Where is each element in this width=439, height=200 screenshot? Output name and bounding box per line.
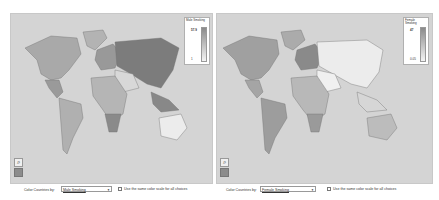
color-legend: Female Smoking 47 0.05: [403, 17, 429, 65]
legend-min: 0.05: [410, 57, 416, 61]
same-scale-checkbox[interactable]: [327, 187, 331, 191]
north-america[interactable]: [223, 36, 279, 80]
chevron-down-icon[interactable]: ▼: [107, 187, 110, 193]
color-by-label: Color Countries by:: [24, 188, 55, 192]
selected-value: Male Smoking: [63, 188, 86, 192]
color-by-label: Color Countries by:: [226, 188, 257, 192]
australia[interactable]: [159, 114, 187, 140]
se-asia[interactable]: [357, 92, 387, 112]
legend-gradient-bar: [201, 27, 207, 62]
south-america[interactable]: [59, 98, 83, 154]
world-map-female[interactable]: [217, 14, 432, 183]
legend-gradient-bar: [420, 27, 426, 62]
southern-africa[interactable]: [307, 114, 323, 132]
magnifier-icon[interactable]: ⌕: [220, 158, 229, 167]
color-by-select[interactable]: Male Smoking ▼: [61, 186, 112, 192]
right-controls: Color Countries by: Female Smoking ▼ Use…: [216, 185, 431, 195]
female-smoking-map-panel[interactable]: Female Smoking 47 0.05 ⌕: [216, 13, 433, 184]
left-controls: Color Countries by: Male Smoking ▼ Use t…: [10, 185, 211, 195]
same-scale-label: Use the same color scale for all choices: [333, 187, 396, 191]
southern-africa[interactable]: [105, 114, 121, 132]
color-swatch-icon[interactable]: [220, 168, 229, 177]
greenland[interactable]: [281, 30, 305, 50]
central-america[interactable]: [45, 80, 63, 98]
legend-title: Female Smoking: [405, 19, 427, 25]
south-america[interactable]: [261, 98, 287, 154]
color-swatch-icon[interactable]: [14, 168, 23, 177]
legend-max: 57.9: [191, 28, 197, 32]
north-america[interactable]: [25, 36, 81, 80]
selected-value: Female Smoking: [262, 188, 289, 192]
color-legend: Male Smoking 57.9 1: [184, 17, 210, 65]
legend-title: Male Smoking: [186, 19, 208, 22]
legend-min: 1: [191, 57, 193, 61]
chevron-down-icon[interactable]: ▼: [311, 187, 314, 193]
legend-max: 47: [410, 28, 413, 32]
central-america[interactable]: [245, 80, 263, 98]
magnifier-icon[interactable]: ⌕: [14, 158, 23, 167]
se-asia[interactable]: [151, 92, 179, 112]
male-smoking-map-panel[interactable]: Male Smoking 57.9 1 ⌕: [10, 13, 213, 184]
color-by-select[interactable]: Female Smoking ▼: [260, 186, 316, 192]
same-scale-label: Use the same color scale for all choices: [124, 187, 187, 191]
greenland[interactable]: [83, 30, 107, 50]
world-map-male[interactable]: [11, 14, 212, 183]
same-scale-checkbox[interactable]: [118, 187, 122, 191]
australia[interactable]: [367, 114, 397, 140]
